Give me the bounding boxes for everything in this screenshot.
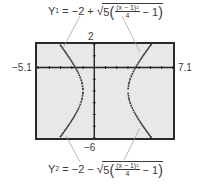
curve-segment-1 (142, 56, 143, 57)
curve-segment-2 (68, 125, 69, 126)
curve-segment-1 (147, 49, 148, 50)
curve-segment-2 (62, 133, 63, 134)
curve-segment-1 (146, 50, 147, 51)
curve-segment-2 (140, 122, 141, 124)
curve-segment-2 (67, 126, 68, 127)
curve-segment-1 (82, 83, 83, 90)
curve-segment-1 (70, 59, 71, 61)
curve-segment-1 (63, 49, 64, 50)
curve-segment-2 (128, 93, 129, 100)
curve-segment-1 (64, 50, 65, 51)
curve-segment-2 (148, 133, 149, 134)
curve-segment-2 (142, 125, 143, 126)
curve-segment-1 (61, 46, 62, 47)
curve-segment-1 (144, 53, 145, 54)
curve-point-1 (82, 89, 84, 91)
xmax-label: 7.1 (178, 62, 192, 73)
curve-segment-1 (145, 52, 146, 53)
screen-frame (36, 43, 174, 139)
curve-segment-1 (60, 45, 61, 46)
curve-segment-2 (144, 128, 145, 129)
curve-segment-2 (64, 130, 65, 131)
curve-segment-1 (141, 57, 142, 58)
ymin-label: −6 (84, 142, 95, 153)
curve-segment-1 (65, 52, 66, 53)
curve-point-2 (150, 136, 152, 138)
curve-segment-2 (70, 122, 71, 124)
curve-segment-2 (149, 135, 150, 136)
curve-segment-1 (128, 83, 129, 90)
curve-point-2 (82, 92, 84, 94)
curve-segment-1 (68, 56, 69, 57)
curve-segment-2 (82, 93, 83, 100)
curve-segment-2 (61, 135, 62, 136)
curve-segment-2 (146, 130, 147, 131)
equation-y2: Y2 = −2 − √ 5( (x − 1)²4 − 1) (48, 160, 163, 177)
curve-segment-1 (143, 54, 144, 55)
curve-segment-2 (145, 129, 146, 130)
curve-segment-1 (67, 54, 68, 55)
equation-y1: Y1 = −2 + √ 5( (x − 1)²4 − 1) (48, 2, 163, 19)
curve-segment-2 (141, 123, 142, 124)
graph-screen (0, 0, 197, 185)
curve-segment-1 (139, 60, 140, 62)
curve-segment-2 (69, 123, 70, 124)
curve-point-1 (150, 44, 152, 46)
curve-segment-1 (71, 60, 72, 62)
curve-segment-2 (66, 128, 67, 129)
curve-segment-1 (66, 53, 67, 54)
curve-segment-2 (139, 120, 140, 122)
curve-segment-1 (148, 47, 149, 48)
curve-segment-2 (60, 136, 61, 137)
curve-segment-2 (63, 132, 64, 133)
curve-segment-1 (69, 57, 70, 58)
curve-segment-2 (71, 120, 72, 122)
curve-segment-2 (65, 129, 66, 130)
curve-segment-1 (149, 46, 150, 47)
curve-segment-2 (147, 132, 148, 133)
ymax-label: 2 (88, 31, 94, 42)
curve-segment-1 (140, 59, 141, 61)
xmin-label: −5.1 (12, 62, 32, 73)
curve-segment-2 (143, 126, 144, 127)
